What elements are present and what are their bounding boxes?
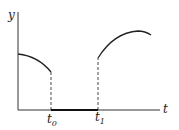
tick-t1-sub: 1 [100, 117, 105, 126]
left-curve [18, 54, 51, 72]
tick-t0-sub: 0 [52, 119, 57, 128]
graph: y t t0 t1 [0, 0, 179, 130]
x-axis-label: t [163, 102, 168, 116]
tick-label-t0: t0 [47, 112, 57, 128]
y-axis-label: y [7, 8, 15, 22]
tick-label-t1: t1 [95, 110, 105, 126]
right-curve [98, 31, 151, 58]
